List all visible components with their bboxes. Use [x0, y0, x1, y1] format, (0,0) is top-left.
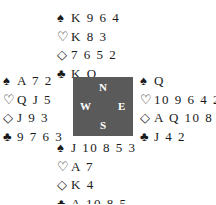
west-spades: ♠A 7 2 [3, 72, 63, 91]
south-hearts: ♡A 7 [57, 158, 137, 177]
compass-west-label: W [80, 100, 91, 112]
east-diamonds: ◇A Q 10 8 [140, 109, 216, 128]
west-hearts: ♡Q J 5 [3, 91, 63, 110]
west-hand: ♠A 7 2 ♡Q J 5 ◇J 9 3 ♣9 7 6 3 [3, 72, 63, 146]
club-icon: ♣ [3, 128, 17, 147]
south-spades: ♠J 10 8 5 3 [57, 139, 137, 158]
compass-south-label: S [100, 119, 106, 131]
west-diamonds: ◇J 9 3 [3, 109, 63, 128]
heart-icon: ♡ [57, 28, 71, 47]
heart-icon: ♡ [3, 91, 17, 110]
diamond-icon: ◇ [57, 46, 71, 65]
north-hearts: ♡K 8 3 [57, 28, 120, 47]
diamond-icon: ◇ [57, 176, 71, 195]
north-diamonds: ◇7 6 5 2 [57, 46, 120, 65]
compass-north-label: N [99, 81, 107, 93]
east-hand: ♠Q ♡10 9 6 4 2 ◇A Q 10 8 ♣J 4 2 [140, 72, 216, 146]
east-clubs: ♣J 4 2 [140, 128, 216, 147]
north-hand: ♠K 9 6 4 ♡K 8 3 ◇7 6 5 2 ♣K Q [57, 9, 120, 83]
spade-icon: ♠ [3, 72, 17, 91]
south-hand: ♠J 10 8 5 3 ♡A 7 ◇K 4 ♣A 10 8 5 [57, 139, 137, 204]
north-spades: ♠K 9 6 4 [57, 9, 120, 28]
spade-icon: ♠ [57, 139, 71, 158]
diamond-icon: ◇ [3, 109, 17, 128]
spade-icon: ♠ [140, 72, 154, 91]
compass-east-label: E [118, 100, 125, 112]
east-spades: ♠Q [140, 72, 216, 91]
heart-icon: ♡ [140, 91, 154, 110]
south-clubs: ♣A 10 8 5 [57, 195, 137, 205]
south-diamonds: ◇K 4 [57, 176, 137, 195]
heart-icon: ♡ [57, 158, 71, 177]
club-icon: ♣ [140, 128, 154, 147]
east-hearts: ♡10 9 6 4 2 [140, 91, 216, 110]
diamond-icon: ◇ [140, 109, 154, 128]
compass-box: N W E S [73, 77, 133, 136]
club-icon: ♣ [57, 195, 71, 205]
west-clubs: ♣9 7 6 3 [3, 128, 63, 147]
spade-icon: ♠ [57, 9, 71, 28]
